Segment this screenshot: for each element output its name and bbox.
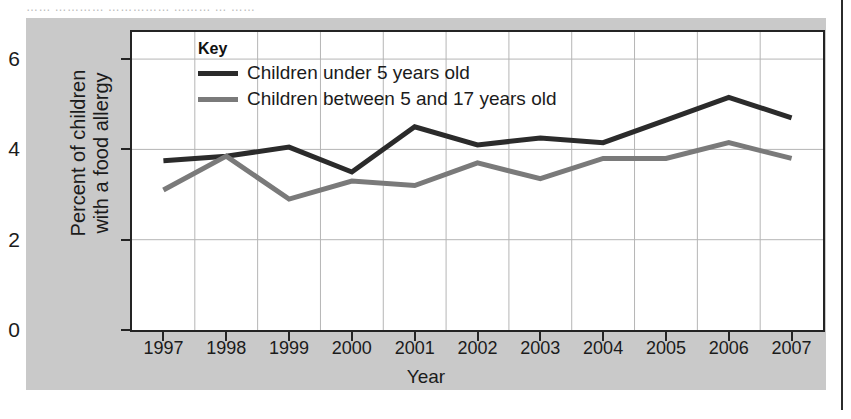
y-tick-mark	[121, 239, 130, 241]
x-tick-mark	[351, 332, 353, 341]
x-tick-mark	[414, 332, 416, 341]
y-axis-title: Percent of children with a food allergy	[67, 33, 113, 273]
x-tick-mark	[162, 332, 164, 341]
x-tick-mark	[477, 332, 479, 341]
x-tick-mark	[602, 332, 604, 341]
chart-legend: Key Children under 5 years old Children …	[198, 40, 556, 112]
y-tick-label: 2	[0, 228, 20, 252]
x-tick-mark	[791, 332, 793, 341]
y-tick-label: 0	[0, 318, 20, 342]
page-edge-rule	[841, 0, 843, 410]
x-tick-label: 1997	[131, 338, 195, 359]
legend-swatch-under-5	[198, 71, 238, 76]
x-tick-label: 2007	[760, 338, 824, 359]
legend-label-5-to-17: Children between 5 and 17 years old	[247, 88, 556, 110]
legend-label-under-5: Children under 5 years old	[247, 62, 470, 84]
legend-entry-under-5: Children under 5 years old	[198, 60, 556, 86]
y-tick-mark	[121, 148, 130, 150]
chart-figure: Percent of children with a food allergy …	[26, 18, 826, 390]
x-tick-label: 1999	[257, 338, 321, 359]
x-tick-mark	[539, 332, 541, 341]
x-tick-label: 2001	[383, 338, 447, 359]
x-tick-label: 2002	[446, 338, 510, 359]
y-tick-label: 6	[0, 47, 20, 71]
x-tick-label: 2003	[508, 338, 572, 359]
legend-entry-5-to-17: Children between 5 and 17 years old	[198, 86, 556, 112]
x-tick-label: 2005	[634, 338, 698, 359]
x-tick-label: 2000	[320, 338, 384, 359]
legend-swatch-5-to-17	[198, 97, 238, 102]
y-tick-mark	[121, 329, 130, 331]
x-axis-title: Year	[26, 366, 826, 388]
x-tick-mark	[728, 332, 730, 341]
figure-page: …… ………… …………… ……… … …… Percent of childr…	[0, 0, 851, 419]
x-tick-label: 2006	[697, 338, 761, 359]
x-tick-label: 1998	[194, 338, 258, 359]
x-tick-mark	[665, 332, 667, 341]
x-tick-mark	[225, 332, 227, 341]
x-tick-label: 2004	[571, 338, 635, 359]
legend-title: Key	[198, 40, 556, 58]
scan-top-cut-text: …… ………… …………… ……… … ……	[0, 0, 851, 14]
y-tick-label: 4	[0, 137, 20, 161]
y-tick-mark	[121, 58, 130, 60]
x-tick-mark	[288, 332, 290, 341]
